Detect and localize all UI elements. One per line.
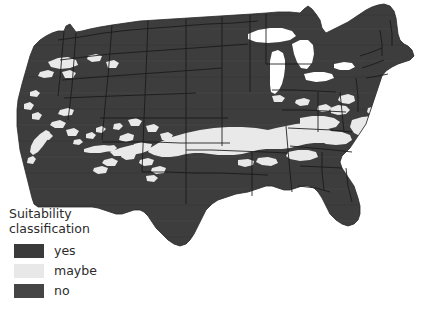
legend-item-yes: yes: [9, 241, 159, 260]
suitability-map-figure: Suitability classification yes maybe no: [0, 0, 435, 315]
legend: Suitability classification yes maybe no: [9, 206, 159, 301]
legend-label-no: no: [54, 284, 70, 298]
legend-item-no: no: [9, 281, 159, 300]
legend-swatch-no: [14, 284, 44, 298]
legend-title: Suitability classification: [9, 206, 159, 236]
legend-item-maybe: maybe: [9, 261, 159, 280]
legend-swatch-maybe: [14, 264, 44, 278]
screenshot-root: Suitability classification yes maybe no: [0, 0, 435, 315]
legend-label-yes: yes: [54, 244, 76, 258]
legend-swatch-yes: [14, 244, 44, 258]
legend-label-maybe: maybe: [54, 264, 97, 278]
